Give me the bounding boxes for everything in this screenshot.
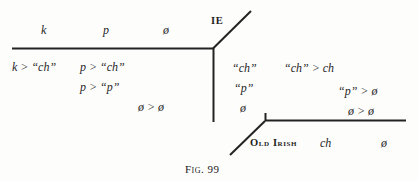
rule-p-to-ch: p > “ch” [80,61,125,73]
node-label-old-irish: Old Irish [250,138,297,149]
bottom-axis-label-null: ø [381,137,387,149]
top-axis-label-3: ø [163,24,169,36]
middle-column-label-ch: “ch” [232,62,257,74]
middle-column-label-null: ø [240,102,246,114]
rule-k-to-ch: k > “ch” [12,61,56,73]
rule-ch-to-ch: “ch” > ch [284,62,334,74]
middle-column-label-p: “p” [234,82,253,94]
rule-p-to-null: “p” > ø [338,85,377,97]
rule-p-to-p: p > “p” [80,81,119,93]
figure-99: IE k p ø k > “ch” p > “ch” p > “p” ø > ø… [0,0,418,181]
top-axis-label-2: p [103,24,109,36]
rule-null-to-null-left: ø > ø [138,101,164,113]
figure-caption: Fig. 99 [185,163,220,175]
top-axis-label-1: k [41,24,46,36]
rule-null-to-null-right: ø > ø [348,105,374,117]
node-label-ie: IE [211,16,223,27]
bottom-axis-label-ch: ch [320,137,331,149]
